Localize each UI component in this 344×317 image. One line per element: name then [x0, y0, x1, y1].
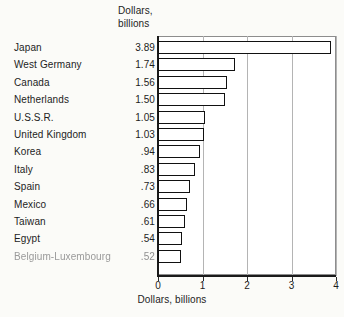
category-label: U.S.S.R. — [14, 109, 54, 126]
bar — [158, 128, 204, 141]
value-label: 1.56 — [70, 74, 155, 91]
bar-row: Egypt.54 — [0, 230, 344, 247]
bar-row: Netherlands1.50 — [0, 91, 344, 108]
category-label: Mexico — [14, 196, 46, 213]
bar-row: Spain.73 — [0, 178, 344, 195]
bar — [158, 58, 235, 71]
bar-row: Taiwan.61 — [0, 213, 344, 230]
value-label: .66 — [70, 196, 155, 213]
bar-row: Mexico.66 — [0, 196, 344, 213]
bar — [158, 41, 331, 54]
bar-row: United Kingdom1.03 — [0, 126, 344, 143]
bar-row: Canada1.56 — [0, 74, 344, 91]
tick-label-4: 4 — [333, 280, 339, 291]
bar-row: Belgium-Luxembourg.52 — [0, 248, 344, 265]
category-label: Taiwan — [14, 213, 46, 230]
bar — [158, 215, 185, 228]
bar — [158, 198, 187, 211]
bar-chart: Dollars, billions 01234 Japan3.89West Ge… — [0, 0, 344, 317]
tick-label-2: 2 — [244, 280, 250, 291]
value-label: .61 — [70, 213, 155, 230]
bar-row: Japan3.89 — [0, 39, 344, 56]
category-label: Canada — [14, 74, 50, 91]
value-label: .83 — [70, 161, 155, 178]
value-label: 1.74 — [70, 56, 155, 73]
tick-label-0: 0 — [155, 280, 161, 291]
tick-label-1: 1 — [200, 280, 206, 291]
value-label: .94 — [70, 143, 155, 160]
value-column-header: Dollars, billions — [118, 4, 153, 30]
category-label: Korea — [14, 143, 41, 160]
bar — [158, 250, 181, 263]
value-label: .52 — [70, 248, 155, 265]
bar — [158, 145, 200, 158]
bar — [158, 180, 190, 193]
value-label: .54 — [70, 230, 155, 247]
tick-label-3: 3 — [289, 280, 295, 291]
bar-row: Korea.94 — [0, 143, 344, 160]
category-label: Spain — [14, 178, 40, 195]
value-label: 3.89 — [70, 39, 155, 56]
bar-row: West Germany1.74 — [0, 56, 344, 73]
bar-row: Italy.83 — [0, 161, 344, 178]
bar — [158, 111, 205, 124]
category-label: Netherlands — [14, 91, 69, 108]
bar — [158, 76, 227, 89]
x-axis-title: Dollars, billions — [0, 294, 344, 305]
value-label: .73 — [70, 178, 155, 195]
category-label: Japan — [14, 39, 42, 56]
value-label: 1.05 — [70, 109, 155, 126]
bar — [158, 232, 182, 245]
value-label: 1.50 — [70, 91, 155, 108]
bar — [158, 93, 225, 106]
bar-row: U.S.S.R.1.05 — [0, 109, 344, 126]
category-label: Italy — [14, 161, 33, 178]
bar — [158, 163, 195, 176]
value-label: 1.03 — [70, 126, 155, 143]
category-label: Egypt — [14, 230, 40, 247]
